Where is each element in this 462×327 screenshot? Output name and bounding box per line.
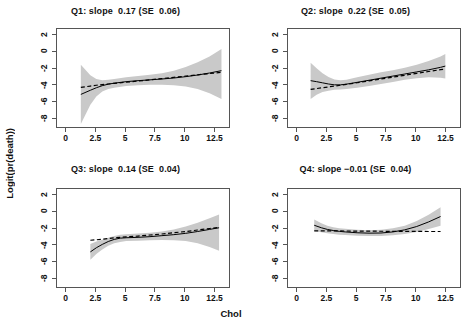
- x-tick-mark: [326, 288, 327, 292]
- x-tick-mark: [184, 288, 185, 292]
- y-tick-label: 2: [40, 26, 51, 44]
- x-tick-mark: [125, 128, 126, 132]
- x-tick-label: 12.5: [201, 133, 229, 143]
- plot-area-q2: [287, 28, 461, 128]
- plot-area-q4: [287, 188, 461, 288]
- y-tick-mark: [52, 84, 56, 85]
- y-tick-mark: [52, 68, 56, 69]
- y-tick-mark: [52, 34, 56, 35]
- x-tick-label: 12.5: [432, 133, 460, 143]
- x-tick-label: 2.5: [312, 133, 340, 143]
- x-tick-mark: [385, 128, 386, 132]
- x-tick-label: 5: [342, 133, 370, 143]
- y-tick-mark: [283, 51, 287, 52]
- x-tick-label: 12.5: [432, 293, 460, 303]
- x-tick-label: 10: [171, 133, 199, 143]
- x-tick-mark: [95, 128, 96, 132]
- x-tick-label: 0: [52, 133, 80, 143]
- x-tick-mark: [356, 288, 357, 292]
- x-tick-mark: [296, 288, 297, 292]
- y-tick-mark: [283, 261, 287, 262]
- x-tick-label: 0: [52, 293, 80, 303]
- y-tick-label: -8: [271, 269, 282, 287]
- x-tick-label: 10: [402, 293, 430, 303]
- y-tick-label: 0: [40, 42, 51, 60]
- plot-area-q1: [56, 28, 230, 128]
- x-tick-mark: [184, 128, 185, 132]
- confidence-band-q3: [90, 214, 219, 259]
- y-tick-mark: [283, 244, 287, 245]
- y-tick-label: 0: [271, 42, 282, 60]
- x-tick-mark: [415, 128, 416, 132]
- x-tick-label: 5: [342, 293, 370, 303]
- y-tick-label: 2: [271, 26, 282, 44]
- y-tick-label: 2: [271, 186, 282, 204]
- y-tick-label: -6: [271, 252, 282, 270]
- x-tick-mark: [445, 128, 446, 132]
- y-tick-mark: [283, 228, 287, 229]
- x-tick-mark: [154, 288, 155, 292]
- y-tick-mark: [52, 118, 56, 119]
- x-tick-label: 7.5: [141, 133, 169, 143]
- y-tick-label: -6: [271, 92, 282, 110]
- y-tick-label: -4: [40, 76, 51, 94]
- series-group-q4: [288, 189, 462, 289]
- y-tick-label: 2: [40, 186, 51, 204]
- x-tick-label: 5: [111, 293, 139, 303]
- y-tick-mark: [52, 261, 56, 262]
- y-tick-mark: [52, 244, 56, 245]
- y-tick-mark: [283, 118, 287, 119]
- panel-q4-title: Q4: slope −0.01 (SE 0.04): [248, 164, 462, 174]
- y-tick-mark: [283, 34, 287, 35]
- x-tick-mark: [95, 288, 96, 292]
- x-tick-label: 7.5: [372, 133, 400, 143]
- x-tick-label: 10: [171, 293, 199, 303]
- x-tick-mark: [415, 288, 416, 292]
- figure-panel-grid: Logit(pr(death)) Q1: slope 0.17 (SE 0.06…: [0, 0, 462, 327]
- y-tick-mark: [283, 278, 287, 279]
- y-tick-mark: [52, 194, 56, 195]
- y-tick-label: -6: [40, 252, 51, 270]
- x-axis-label-text: Chol: [220, 308, 241, 319]
- x-tick-mark: [125, 288, 126, 292]
- y-tick-label: -8: [40, 269, 51, 287]
- y-axis-label: Logit(pr(death)): [2, 0, 16, 327]
- x-tick-label: 0: [283, 293, 311, 303]
- confidence-band-q1: [81, 49, 222, 124]
- y-tick-mark: [52, 101, 56, 102]
- x-tick-mark: [214, 128, 215, 132]
- x-tick-label: 10: [402, 133, 430, 143]
- y-tick-mark: [52, 278, 56, 279]
- y-tick-mark: [52, 228, 56, 229]
- y-tick-label: -2: [271, 59, 282, 77]
- series-group-q3: [57, 189, 231, 289]
- y-tick-label: -8: [271, 109, 282, 127]
- plot-area-q3: [56, 188, 230, 288]
- y-tick-mark: [283, 101, 287, 102]
- x-tick-mark: [385, 288, 386, 292]
- x-tick-label: 2.5: [81, 133, 109, 143]
- y-tick-label: -2: [40, 59, 51, 77]
- x-tick-mark: [154, 128, 155, 132]
- y-axis-label-text: Logit(pr(death)): [4, 128, 15, 199]
- y-tick-label: -4: [40, 236, 51, 254]
- y-tick-label: -2: [271, 219, 282, 237]
- y-tick-mark: [283, 68, 287, 69]
- x-tick-label: 0: [283, 133, 311, 143]
- x-tick-mark: [65, 288, 66, 292]
- y-tick-mark: [283, 194, 287, 195]
- x-tick-label: 2.5: [312, 293, 340, 303]
- x-tick-mark: [214, 288, 215, 292]
- x-tick-mark: [356, 128, 357, 132]
- panel-q1-title: Q1: slope 0.17 (SE 0.06): [18, 6, 233, 16]
- x-tick-mark: [326, 128, 327, 132]
- y-tick-label: -8: [40, 109, 51, 127]
- y-tick-mark: [283, 211, 287, 212]
- x-tick-label: 5: [111, 133, 139, 143]
- y-tick-label: -6: [40, 92, 51, 110]
- y-tick-label: 0: [271, 202, 282, 220]
- y-tick-label: -2: [40, 219, 51, 237]
- series-group-q2: [288, 29, 462, 129]
- x-tick-mark: [445, 288, 446, 292]
- x-tick-label: 12.5: [201, 293, 229, 303]
